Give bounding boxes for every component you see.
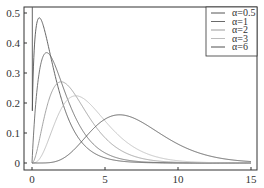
y-tick-label: 0.5 [6, 7, 20, 19]
y-tick-label: 0 [15, 157, 21, 169]
y-tick-label: 0.1 [6, 127, 20, 139]
x-tick-label: 0 [29, 173, 35, 185]
series-line [32, 96, 251, 163]
x-tick-label: 5 [102, 173, 108, 185]
x-tick-label: 10 [173, 173, 185, 185]
series-line [32, 115, 251, 163]
y-tick-label: 0.4 [6, 37, 20, 49]
series-line [32, 53, 251, 163]
y-tick-label: 0.3 [6, 67, 20, 79]
x-tick-label: 15 [246, 173, 258, 185]
legend-label: α=6 [232, 41, 248, 52]
y-tick-label: 0.2 [6, 97, 20, 109]
legend: α=0.5α=1α=2α=3α=6 [206, 7, 257, 56]
gamma-line-chart: 00.10.20.30.40.5 051015 α=0.5α=1α=2α=3α=… [0, 0, 264, 188]
